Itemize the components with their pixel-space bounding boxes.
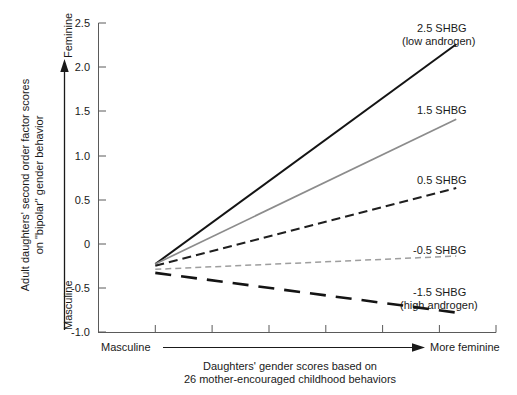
y-tick-label-0: 0	[58, 238, 90, 252]
y-tick-label-0-5: 0.5	[58, 194, 90, 208]
series-line-1-5-shbg	[155, 119, 456, 264]
series-label-neg-1-5-shbg: -1.5 SHBG	[413, 285, 466, 299]
y-direction-bottom-label: Masculine	[62, 280, 76, 330]
series-label-2-5-shbg: 2.5 SHBG	[417, 21, 467, 35]
x-direction-left-label: Masculine	[101, 341, 151, 355]
x-axis-caption-line1: Daughters' gender scores based on	[140, 360, 440, 374]
data-series-layer	[155, 44, 456, 312]
x-axis-caption-line2: 26 mother-encouraged childhood behaviors	[140, 373, 440, 387]
series-line-0-5-shbg	[155, 188, 456, 266]
chart-figure: 2.5 2.0 1.5 1.0 0.5 0 -0.5 -1.0 Feminine…	[0, 0, 517, 395]
y-tick-label-1-5: 1.5	[58, 105, 90, 119]
series-label-1-5-shbg: 1.5 SHBG	[417, 103, 467, 117]
y-tick-label-1-0: 1.0	[58, 150, 90, 164]
y-axis-title-line1: Adult daughters' second order factor sco…	[18, 50, 32, 320]
x-axis-ticks	[99, 325, 497, 333]
series-line-2-5-shbg	[155, 44, 456, 264]
x-direction-arrow-icon	[163, 343, 425, 351]
series-label-0-5-shbg: 0.5 SHBG	[417, 173, 467, 187]
x-direction-right-label: More feminine	[430, 341, 500, 355]
series-label-2-5-shbg-sub: (low androgen)	[402, 34, 475, 48]
y-tick-label-2-0: 2.0	[58, 61, 90, 75]
y-axis-title-line2: on "bipolar" gender behavior	[32, 50, 46, 320]
y-direction-top-label: Feminine	[62, 13, 76, 58]
y-axis-ticks	[99, 23, 107, 332]
series-label-neg-1-5-shbg-sub: (high androgen)	[400, 298, 478, 312]
series-label-neg-0-5-shbg: -0.5 SHBG	[413, 243, 466, 257]
series-line--0-5-shbg	[155, 256, 456, 269]
